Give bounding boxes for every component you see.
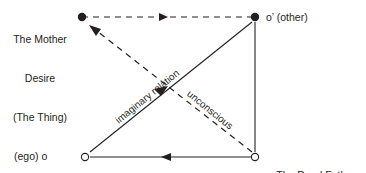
edge-father-to-ego: [90, 153, 251, 161]
node-mother-label-line1: The Mother: [2, 33, 78, 46]
node-other-label: o’ (other): [266, 11, 346, 24]
node-father-marker: [251, 153, 258, 160]
edge-father-to-mother-arrowhead: [89, 25, 101, 36]
node-ego-label: (ego) o: [14, 150, 76, 163]
edge-ego-to-other: [90, 22, 252, 152]
edge-ego-to-other-line: [90, 22, 252, 152]
edge-father-to-ego-arrowhead: [161, 153, 171, 161]
l-schema-diagram: The Mother Desire (The Thing) o’ (other)…: [0, 0, 366, 173]
node-mother-label-line2: Desire: [2, 72, 78, 85]
node-father-label: The Dead Father The Law: [268, 143, 364, 173]
node-ego-marker: [81, 153, 88, 160]
node-mother-label-line3: (The Thing): [2, 111, 78, 124]
edge-mother-to-other: [82, 13, 255, 21]
node-mother-marker: [78, 13, 86, 21]
edge-mother-to-other-arrowhead: [159, 13, 168, 21]
node-other-marker: [251, 13, 259, 21]
node-father-label-line1: The Dead Father: [268, 169, 364, 173]
node-mother-label: The Mother Desire (The Thing): [2, 7, 78, 150]
